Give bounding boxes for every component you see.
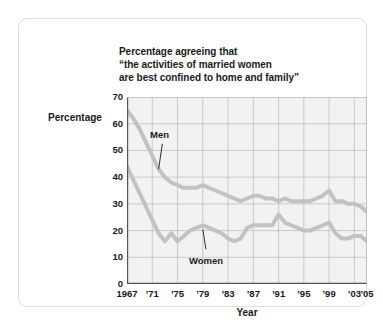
x-tick-label: ’03 — [348, 288, 361, 299]
y-tick-label: 70 — [97, 91, 123, 102]
chart-title: Percentage agreeing that “the activities… — [119, 45, 359, 85]
chart-title-line-1: Percentage agreeing that — [119, 45, 359, 58]
x-tick-label: ’87 — [247, 288, 260, 299]
x-tick-label: 1967 — [116, 288, 137, 299]
plot-svg — [127, 97, 367, 284]
x-tick-label: ’05 — [360, 288, 373, 299]
chart-card: Percentage agreeing that “the activities… — [18, 18, 367, 307]
chart-title-line-2: “the activities of married women — [119, 58, 359, 71]
series-label-men: Men — [150, 129, 169, 140]
x-axis-label: Year — [127, 307, 367, 318]
y-tick-label: 20 — [97, 225, 123, 236]
x-axis-tick-labels: 1967’71’75’79’83’87’91’95’99’03’05 — [127, 288, 377, 302]
y-tick-label: 60 — [97, 118, 123, 129]
y-tick-label: 40 — [97, 171, 123, 182]
x-tick-label: ’95 — [297, 288, 310, 299]
x-tick-label: ’79 — [196, 288, 209, 299]
y-axis-tick-labels: 706050403020100 — [93, 97, 123, 284]
y-tick-label: 10 — [97, 251, 123, 262]
y-tick-label: 30 — [97, 198, 123, 209]
x-tick-label: ’91 — [272, 288, 285, 299]
y-tick-label: 50 — [97, 144, 123, 155]
chart-page: Percentage agreeing that “the activities… — [0, 0, 383, 327]
x-tick-label: ’99 — [322, 288, 335, 299]
series-label-women: Women — [189, 255, 223, 266]
x-tick-label: ’83 — [221, 288, 234, 299]
chart-title-line-3: are best confined to home and family” — [119, 71, 359, 84]
plot-area — [127, 97, 367, 284]
x-tick-label: ’75 — [171, 288, 184, 299]
x-tick-label: ’71 — [146, 288, 159, 299]
